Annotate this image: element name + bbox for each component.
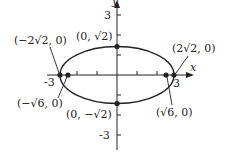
bottom-covertex-label: (0, −√2) xyxy=(66,108,112,121)
right-focus-label: (√6, 0) xyxy=(156,106,193,119)
y-tick-neg3: -3 xyxy=(99,129,110,142)
left-focus-label: (−√6, 0) xyxy=(17,97,63,110)
x-axis-label: x xyxy=(190,61,197,74)
ellipse-diagram: y x 3 -3 -3 3 (−2√2, 0) (2√2, 0) (0, √2)… xyxy=(0,0,228,160)
y-axis-label: y xyxy=(111,0,119,8)
x-tick-neg3: -3 xyxy=(44,76,55,89)
left-vertex-label: (−2√2, 0) xyxy=(14,34,67,47)
x-tick-3: 3 xyxy=(173,77,180,90)
top-covertex-label: (0, √2) xyxy=(76,30,113,43)
y-tick-3: 3 xyxy=(104,9,111,22)
right-vertex-label: (2√2, 0) xyxy=(172,42,216,55)
